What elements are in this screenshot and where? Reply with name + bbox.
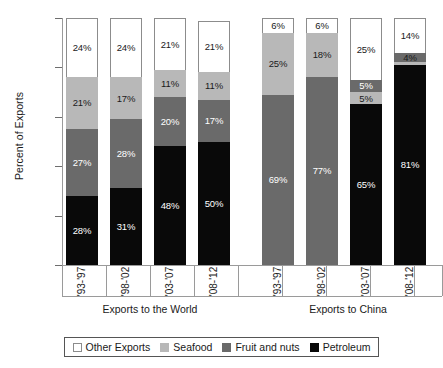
bar-segment[interactable]: 21% — [66, 77, 98, 129]
x-tick-label: '93-'97 — [67, 266, 97, 296]
x-axis-separator — [150, 265, 151, 296]
x-axis-separator — [106, 265, 107, 296]
bar-segment[interactable]: 77% — [306, 77, 338, 265]
y-axis-title: Percent of Exports — [13, 31, 25, 241]
stacked-bar[interactable]: 48%20%11%21% — [154, 18, 186, 265]
bar-segment-value-label: 28% — [117, 149, 136, 159]
x-tick-label: '03-'07 — [351, 266, 381, 296]
stacked-bar[interactable]: 69%25%6% — [262, 18, 294, 265]
bar-segment[interactable]: 18% — [306, 33, 338, 77]
bar-segment[interactable]: 21% — [154, 18, 186, 70]
legend-item: Petroleum — [305, 341, 376, 353]
legend-swatch-other-exports — [73, 343, 82, 352]
legend-swatch-petroleum — [310, 343, 319, 352]
legend-label: Other Exports — [86, 341, 151, 353]
bar-segment-value-label: 28% — [73, 226, 92, 236]
bar-segment-value-label: 5% — [359, 81, 373, 91]
bar-segment[interactable]: 25% — [262, 33, 294, 95]
bar-segment-value-label: 6% — [271, 21, 285, 31]
bar-segment[interactable]: 24% — [66, 18, 98, 77]
x-tick-label-text: '08-'12 — [405, 266, 416, 295]
x-axis-separator — [194, 265, 195, 296]
y-tick-mark — [55, 216, 62, 217]
bar-segment[interactable]: 27% — [66, 129, 98, 196]
bar-segment-value-label: 31% — [117, 222, 136, 232]
x-tick-label: '98-'02 — [307, 266, 337, 296]
bar-segment-value-label: 17% — [117, 94, 136, 104]
bar-segment[interactable]: 11% — [198, 72, 230, 99]
stacked-bar[interactable]: 65%5%5%25% — [350, 18, 382, 265]
bar-segment[interactable]: 28% — [110, 119, 142, 188]
legend-label: Seafood — [173, 341, 212, 353]
bar-segment[interactable]: 4% — [394, 53, 426, 63]
y-tick-mark — [55, 117, 62, 118]
bar-segment[interactable]: 21% — [198, 21, 230, 73]
stacked-bar[interactable]: 31%28%17%24% — [110, 18, 142, 265]
bar-segment[interactable]: 24% — [110, 18, 142, 77]
bar-segment-value-label: 25% — [269, 59, 288, 69]
bar-segment[interactable]: 81% — [394, 65, 426, 265]
bar-segment-value-label: 6% — [315, 21, 329, 31]
bar-segment-value-label: 24% — [117, 43, 136, 53]
bar-segment[interactable]: 17% — [110, 77, 142, 119]
x-tick-label-text: '98-'02 — [121, 266, 132, 295]
bar-segment-value-label: 65% — [357, 180, 376, 190]
bar-segment[interactable]: 25% — [350, 18, 382, 80]
bar-segment[interactable]: 65% — [350, 104, 382, 265]
stacked-bar[interactable]: 77%18%6% — [306, 18, 338, 265]
bar-segment[interactable]: 14% — [394, 18, 426, 53]
bar-segment[interactable]: 17% — [198, 100, 230, 142]
x-tick-label: '03-'07 — [155, 266, 185, 296]
bar-segment-value-label: 24% — [73, 43, 92, 53]
stacked-bar[interactable]: 81%4%14% — [394, 18, 426, 265]
bar-segment-value-label: 21% — [205, 42, 224, 52]
bar-segment-value-label: 21% — [161, 40, 180, 50]
x-axis-baseline — [62, 296, 442, 297]
bar-segment[interactable]: 5% — [350, 80, 382, 92]
bar-segment[interactable]: 6% — [306, 18, 338, 33]
bar-segment[interactable]: 5% — [350, 92, 382, 104]
bar-segment[interactable]: 20% — [154, 97, 186, 146]
plot-area: 28%27%21%24%31%28%17%24%48%20%11%21%50%1… — [63, 18, 442, 265]
x-axis-separator — [62, 265, 63, 296]
stacked-bar-chart: Percent of Exports 100%80%60%40%20%0% 28… — [0, 0, 443, 368]
x-tick-label-text: '03-'07 — [165, 266, 176, 295]
legend-item: Seafood — [155, 341, 217, 353]
bar-segment-value-label: 14% — [401, 31, 420, 41]
bar-segment-value-label: 18% — [313, 50, 332, 60]
bar-segment[interactable]: 31% — [110, 188, 142, 265]
legend-swatch-fruit-and-nuts — [222, 343, 231, 352]
x-tick-label: '98-'02 — [111, 266, 141, 296]
bar-segment-value-label: 69% — [269, 175, 288, 185]
y-tick-mark — [55, 265, 62, 266]
bar-segment-value-label: 20% — [161, 117, 180, 127]
bar-segment[interactable]: 69% — [262, 95, 294, 265]
bar-segment[interactable]: 6% — [262, 18, 294, 33]
group-label-china: Exports to China — [258, 303, 438, 315]
bar-segment[interactable]: 50% — [198, 142, 230, 266]
bar-segment[interactable]: 48% — [154, 146, 186, 265]
bar-segment-value-label: 21% — [73, 98, 92, 108]
stacked-bar[interactable]: 28%27%21%24% — [66, 18, 98, 265]
bar-segment-value-label: 11% — [161, 79, 179, 89]
bar-segment-value-label: 77% — [313, 166, 332, 176]
bar-segment[interactable]: 28% — [66, 196, 98, 265]
x-tick-label: '93-'97 — [263, 266, 293, 296]
legend-label: Petroleum — [323, 341, 371, 353]
x-tick-label-text: '93-'97 — [273, 266, 284, 295]
y-tick-mark — [55, 166, 62, 167]
x-tick-label-text: '08-'12 — [209, 266, 220, 295]
bar-segment-value-label: 48% — [161, 201, 180, 211]
legend-item: Other Exports — [68, 341, 156, 353]
legend-item: Fruit and nuts — [217, 341, 304, 353]
bar-segment[interactable]: 11% — [154, 70, 186, 97]
bar-segment-value-label: 11% — [205, 81, 223, 91]
group-label-world: Exports to the World — [60, 303, 240, 315]
bar-segment-value-label: 27% — [73, 158, 92, 168]
stacked-bar[interactable]: 50%17%11%21% — [198, 18, 230, 265]
legend-label: Fruit and nuts — [235, 341, 299, 353]
bar-segment[interactable] — [394, 62, 426, 64]
x-tick-label-text: '93-'97 — [77, 266, 88, 295]
x-tick-label: '08-'12 — [395, 266, 425, 296]
x-tick-label-text: '98-'02 — [317, 266, 328, 295]
